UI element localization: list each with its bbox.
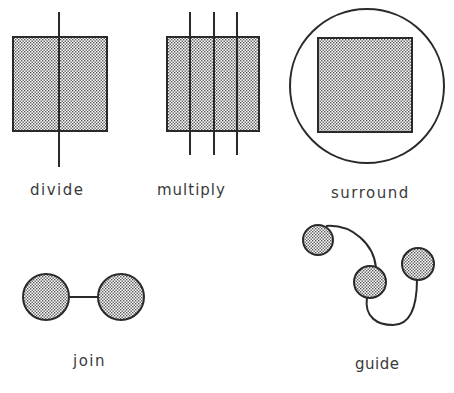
surround-square <box>318 38 412 132</box>
join-circle-left <box>23 274 69 320</box>
join-circle-right <box>98 274 144 320</box>
guide-circle-3 <box>402 248 434 280</box>
multiply-label: multiply <box>157 181 226 199</box>
guide-circle-1 <box>303 225 333 255</box>
surround-label: surround <box>331 184 410 202</box>
join-figure <box>23 274 144 320</box>
guide-circle-2 <box>354 266 386 298</box>
guide-curve-upper <box>326 226 376 268</box>
divide-figure <box>13 12 107 167</box>
surround-figure <box>290 9 444 163</box>
join-label: join <box>73 352 106 370</box>
divide-label: divide <box>30 181 84 199</box>
guide-figure <box>303 225 434 325</box>
guide-label: guide <box>355 355 399 373</box>
multiply-figure <box>167 12 259 155</box>
